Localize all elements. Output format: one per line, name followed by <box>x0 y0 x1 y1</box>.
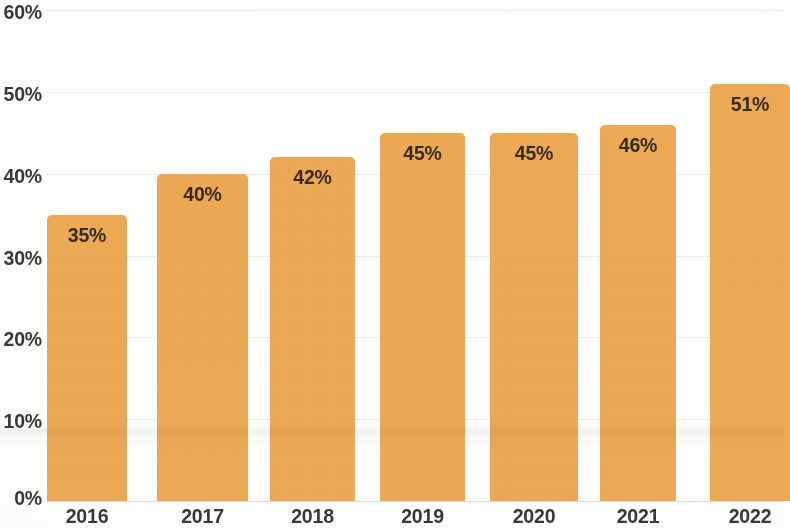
y-tick-10: 10% <box>0 412 42 432</box>
bar-texture-2021 <box>600 125 676 501</box>
bar-2022[interactable]: 51% <box>710 84 790 501</box>
bar-value-2022: 51% <box>710 95 790 115</box>
gridline-50 <box>47 92 784 93</box>
gridline-60 <box>47 10 784 11</box>
y-tick-40: 40% <box>0 167 42 187</box>
y-tick-20: 20% <box>0 331 42 351</box>
x-tick-2017: 2017 <box>157 505 248 527</box>
bar-texture-2018 <box>270 157 355 501</box>
bar-value-2020: 45% <box>490 144 578 164</box>
bar-2018[interactable]: 42% <box>270 157 355 501</box>
y-tick-60: 60% <box>0 3 42 23</box>
bar-value-2016: 35% <box>47 226 127 246</box>
y-tick-50: 50% <box>0 85 42 105</box>
bar-value-2021: 46% <box>600 136 676 156</box>
bar-texture-2016 <box>47 215 127 501</box>
x-tick-2016: 2016 <box>47 505 127 527</box>
x-tick-2018: 2018 <box>270 505 355 527</box>
bar-2020[interactable]: 45% <box>490 133 578 501</box>
bar-texture-2022 <box>710 84 790 501</box>
bar-value-2017: 40% <box>157 185 248 205</box>
bar-2019[interactable]: 45% <box>380 133 465 501</box>
bar-value-2018: 42% <box>270 168 355 188</box>
x-axis: 2016 2017 2018 2019 2020 2021 2022 <box>0 505 784 529</box>
bar-2021[interactable]: 46% <box>600 125 676 501</box>
plot-area: 35% 40% 42% 45% 45% 46% 51% <box>47 10 784 501</box>
gridline-0-baseline <box>47 501 784 502</box>
y-axis: 60% 50% 40% 30% 20% 10% 0% <box>0 0 42 529</box>
x-tick-2019: 2019 <box>380 505 465 527</box>
bar-2016[interactable]: 35% <box>47 215 127 501</box>
bar-value-2019: 45% <box>380 144 465 164</box>
bar-texture-2017 <box>157 174 248 501</box>
bar-texture-2020 <box>490 133 578 501</box>
x-tick-2020: 2020 <box>490 505 578 527</box>
bar-texture-2019 <box>380 133 465 501</box>
bar-2017[interactable]: 40% <box>157 174 248 501</box>
x-tick-2021: 2021 <box>600 505 676 527</box>
y-tick-30: 30% <box>0 249 42 269</box>
x-tick-2022: 2022 <box>710 505 790 527</box>
